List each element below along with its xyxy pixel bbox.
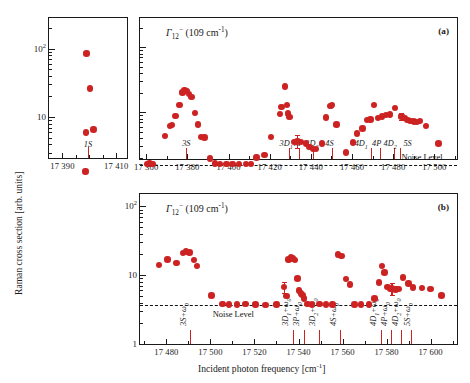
data-point	[286, 114, 292, 120]
data-point	[248, 161, 254, 167]
data-point	[329, 301, 335, 307]
inset-1s-panel: 1010217 39017 4101S	[48, 17, 128, 159]
data-point	[417, 118, 423, 124]
data-point	[366, 301, 372, 307]
data-point	[387, 111, 393, 117]
data-point	[435, 140, 441, 146]
data-point	[371, 102, 377, 108]
noise-level-label: Noise Level	[213, 309, 254, 319]
data-point	[252, 301, 258, 307]
data-point	[172, 113, 178, 119]
y-tick-minor	[140, 146, 143, 147]
data-point	[162, 133, 168, 139]
data-point	[169, 122, 175, 128]
y-tick-minor	[140, 254, 143, 255]
state-label: 3S	[182, 139, 190, 148]
y-tick-minor	[140, 28, 143, 29]
data-point	[376, 279, 382, 285]
data-point	[234, 301, 240, 307]
y-tick-minor	[140, 50, 143, 51]
y-tick-minor	[49, 144, 52, 145]
gamma-tail-end-a: )	[225, 27, 228, 38]
y-tick-major	[49, 49, 55, 50]
y-tick-minor	[140, 282, 143, 283]
y-tick-minor	[140, 115, 143, 116]
y-tick-major	[49, 117, 55, 118]
state-marker-line	[381, 330, 382, 344]
y-tick-label: 102	[125, 201, 140, 211]
state-marker-line	[411, 330, 412, 344]
state-label: 4S	[325, 139, 333, 148]
y-tick-minor	[140, 290, 143, 291]
data-point	[186, 249, 192, 255]
data-point	[284, 102, 290, 108]
data-point	[419, 285, 425, 291]
y-tick-minor	[49, 132, 52, 133]
x-tick-minor	[373, 156, 374, 159]
data-point	[359, 125, 365, 131]
noise-level-label: Noise Level	[401, 152, 442, 162]
data-point	[395, 286, 401, 292]
state-label: 4P	[372, 139, 381, 148]
data-point	[83, 50, 89, 56]
x-tick-label: 17 410	[104, 158, 128, 171]
y-tick-minor	[140, 62, 143, 63]
data-point	[392, 105, 398, 111]
data-point	[208, 292, 214, 298]
gamma-tail-end-b: )	[225, 203, 228, 214]
data-point	[283, 293, 289, 299]
state-marker-line	[319, 330, 320, 344]
y-tick-minor	[140, 296, 143, 297]
state-label: 5S	[403, 139, 411, 148]
x-tick-label: 17 600	[418, 344, 442, 357]
y-tick-minor	[49, 28, 52, 29]
state-label: 4D1	[355, 139, 368, 148]
state-marker-line	[340, 330, 341, 344]
x-tick-label: 17 500	[198, 344, 222, 357]
y-tick-label: 1	[133, 339, 141, 349]
data-point	[173, 260, 179, 266]
y-tick-minor	[140, 132, 143, 133]
y-tick-minor	[140, 210, 143, 211]
y-tick-minor	[49, 59, 52, 60]
data-point	[358, 301, 364, 307]
x-tick-minor	[409, 341, 410, 344]
y-tick-minor	[140, 138, 143, 139]
y-tick-minor	[140, 127, 143, 128]
panel-b: 11010217 48017 50017 52017 54017 56017 5…	[139, 193, 458, 345]
data-point	[219, 301, 225, 307]
y-tick-major	[140, 206, 146, 207]
data-point	[176, 102, 182, 108]
y-tick-minor	[140, 286, 143, 287]
data-point	[347, 281, 353, 287]
data-point	[83, 129, 89, 135]
panel-b-tag: (b)	[438, 202, 449, 212]
data-point	[195, 121, 201, 127]
data-point	[253, 154, 259, 160]
noise-level-line	[140, 165, 457, 166]
panel-a: 17 36017 38017 40017 42017 44017 46017 4…	[139, 17, 458, 160]
x-tick-minor	[167, 156, 168, 159]
data-point	[292, 257, 298, 263]
y-tick-minor	[49, 76, 52, 77]
y-tick-major	[140, 112, 146, 113]
y-tick-minor	[140, 57, 143, 58]
state-marker-line	[293, 330, 294, 344]
x-tick-minor	[249, 156, 250, 159]
y-tick-minor	[140, 303, 143, 304]
data-point	[338, 253, 344, 259]
state-marker-line	[332, 148, 333, 159]
error-bar-cap	[390, 295, 395, 296]
x-tick-minor	[455, 156, 456, 159]
data-point	[281, 284, 287, 290]
data-point	[367, 116, 373, 122]
data-point	[277, 111, 283, 117]
y-tick-minor	[49, 153, 52, 154]
y-tick-major	[140, 47, 146, 48]
data-point	[423, 123, 429, 129]
error-bar-cap	[295, 148, 300, 149]
y-tick-minor	[140, 122, 143, 123]
x-tick-minor	[276, 341, 277, 344]
y-tick-label: 102	[34, 44, 49, 54]
gamma-tail-b: (109 cm	[183, 203, 219, 214]
